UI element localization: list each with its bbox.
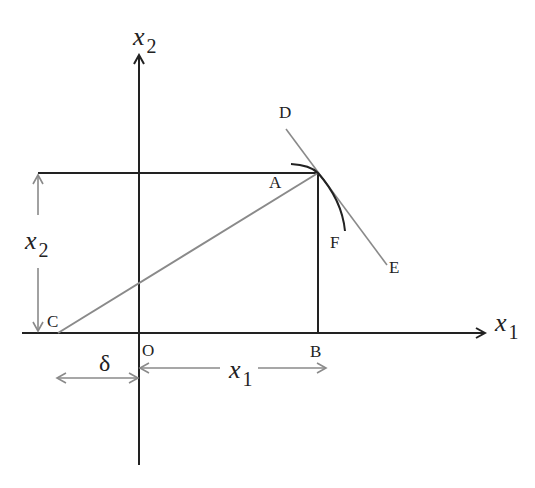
point-a-label: A (269, 173, 282, 192)
line-ca (58, 173, 318, 333)
origin-label: O (142, 341, 154, 360)
height-dimension-label: x2 (24, 226, 49, 261)
length-dimension-label: x1 (228, 355, 253, 390)
delta-label: δ (99, 350, 110, 376)
point-b-label: B (310, 342, 321, 361)
point-e-label: E (389, 258, 399, 277)
point-d-label: D (279, 103, 291, 122)
x1-axis-label: x1 (494, 308, 519, 343)
point-f-label: F (330, 233, 339, 252)
geometry-diagram: x2 x1 x2 x1 δ A B C D E F O (0, 0, 535, 488)
x2-axis-label: x2 (132, 22, 157, 57)
point-c-label: C (47, 312, 58, 331)
